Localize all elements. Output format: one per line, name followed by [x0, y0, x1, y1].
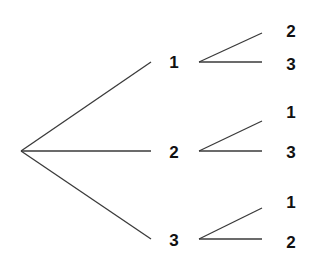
edge-1-to-2: [199, 33, 262, 62]
tree-diagram: 1 2 3 2 3 1 3 1 2: [0, 0, 316, 266]
node-label-2: 2: [169, 143, 178, 162]
edge-root-to-3: [21, 151, 151, 239]
node-label-1: 1: [169, 53, 178, 72]
leaf-label-1-3: 3: [286, 55, 295, 74]
tree-labels: 1 2 3 2 3 1 3 1 2: [169, 22, 295, 252]
leaf-label-3-1: 1: [286, 193, 295, 212]
node-label-3: 3: [169, 231, 178, 250]
tree-edges: [21, 33, 262, 239]
leaf-label-2-3: 3: [286, 143, 295, 162]
edge-2-to-1: [199, 121, 262, 151]
edge-3-to-1: [199, 208, 262, 239]
leaf-label-3-2: 2: [286, 233, 295, 252]
leaf-label-2-1: 1: [286, 103, 295, 122]
leaf-label-1-2: 2: [286, 22, 295, 41]
edge-root-to-1: [21, 62, 151, 151]
